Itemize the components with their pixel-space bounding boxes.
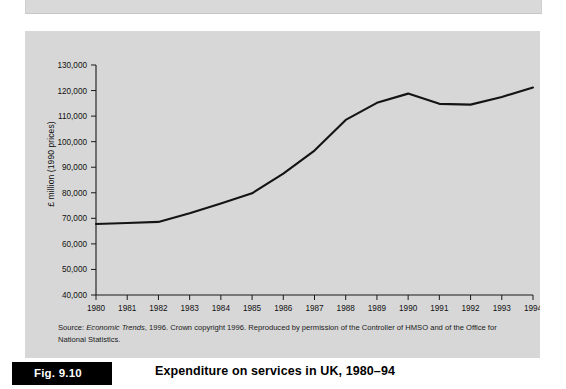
source-prefix: Source: bbox=[58, 323, 86, 332]
x-axis-ticks: 1980198119821983198419851986198719881989… bbox=[87, 295, 540, 313]
figure-number-tag: Fig. 9.10 bbox=[12, 362, 112, 385]
y-tick-label: 40,000 bbox=[62, 291, 87, 300]
source-note: Source: Economic Trends, 1996. Crown cop… bbox=[58, 322, 518, 347]
x-tick-label: 1982 bbox=[149, 304, 168, 313]
x-tick-label: 1990 bbox=[399, 304, 418, 313]
line-chart: 130,000120,000110,000100,00090,00080,000… bbox=[25, 31, 540, 321]
x-tick-label: 1988 bbox=[337, 304, 356, 313]
x-tick-label: 1985 bbox=[243, 304, 262, 313]
top-panel-strip bbox=[25, 0, 542, 14]
source-rest: , 1996. Crown copyright 1996. Reproduced… bbox=[145, 323, 403, 332]
x-tick-label: 1981 bbox=[118, 304, 137, 313]
x-tick-label: 1984 bbox=[212, 304, 231, 313]
x-tick-label: 1991 bbox=[430, 304, 449, 313]
y-tick-label: 120,000 bbox=[57, 87, 87, 96]
figure-title: Expenditure on services in UK, 1980–94 bbox=[155, 364, 395, 378]
y-axis-ticks: 130,000120,000110,000100,00090,00080,000… bbox=[57, 61, 96, 300]
x-tick-label: 1992 bbox=[461, 304, 480, 313]
data-series-line bbox=[96, 87, 533, 223]
x-tick-label: 1980 bbox=[87, 304, 106, 313]
chart-area: £ million (1990 prices) 130,000120,00011… bbox=[25, 31, 540, 321]
axis-frame bbox=[96, 65, 533, 295]
x-tick-label: 1986 bbox=[274, 304, 293, 313]
x-tick-label: 1994 bbox=[524, 304, 540, 313]
y-tick-label: 80,000 bbox=[62, 189, 87, 198]
source-publication: Economic Trends bbox=[86, 323, 145, 332]
x-tick-label: 1983 bbox=[181, 304, 200, 313]
y-tick-label: 50,000 bbox=[62, 265, 87, 274]
y-tick-label: 130,000 bbox=[57, 61, 87, 70]
y-tick-label: 100,000 bbox=[57, 138, 87, 147]
caption-bar: Fig. 9.10 Expenditure on services in UK,… bbox=[0, 362, 566, 389]
y-tick-label: 70,000 bbox=[62, 214, 87, 223]
y-tick-label: 110,000 bbox=[58, 112, 87, 121]
x-tick-label: 1987 bbox=[305, 304, 324, 313]
figure-panel: £ million (1990 prices) 130,000120,00011… bbox=[25, 31, 540, 358]
y-tick-label: 60,000 bbox=[62, 240, 87, 249]
y-tick-label: 90,000 bbox=[62, 163, 87, 172]
x-tick-label: 1993 bbox=[493, 304, 512, 313]
x-tick-label: 1989 bbox=[368, 304, 387, 313]
